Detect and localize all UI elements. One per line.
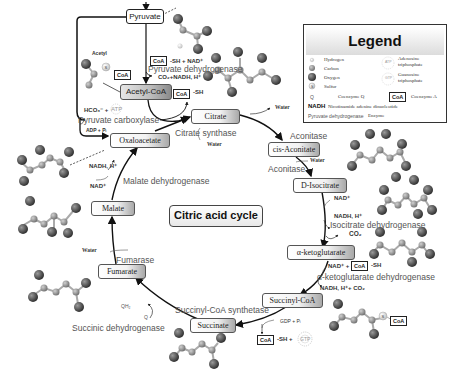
- gtp-label: GTP: [300, 336, 310, 342]
- legend-coa-label: Coenzyme A: [411, 94, 437, 99]
- isocitrate-nad: NAD⁺: [334, 194, 350, 201]
- cis-aconitate-box: cis-Aconitate: [268, 142, 320, 157]
- fumarase-water: Water: [82, 247, 97, 253]
- succinyl-coa-molecule: S: [329, 299, 392, 339]
- fumarate-box: Fumarate: [98, 264, 146, 279]
- acetyl-coa-box: Acetyl-CoA: [120, 84, 172, 100]
- enzyme-aconitase-1: Aconitase: [290, 131, 327, 141]
- enzyme-akg-dehydrogenase: α-ketoglutarate dehydrogenase: [317, 272, 435, 282]
- legend-coa-symbol: CoA: [389, 92, 406, 102]
- pyruvate-box: Pyruvate: [126, 9, 164, 24]
- oxaloacetate-box: Oxaloacetate: [110, 133, 170, 148]
- succinyl-coa-box: Succinyl-CoA: [262, 293, 323, 308]
- succinyl-synth-coa-tag: CoA: [257, 335, 274, 345]
- legend-atp-line1: Adenosine: [398, 56, 419, 61]
- alpha-ketoglutarate-molecule: [369, 227, 435, 267]
- pyruvate-molecule: [173, 14, 212, 54]
- q-label: Q: [144, 314, 148, 320]
- svg-text:S: S: [382, 314, 385, 319]
- legend-nadh-symbol: NADH: [308, 103, 325, 109]
- pdh-co2-nadh: CO₂+NADH, H⁺: [158, 73, 201, 80]
- enzyme-citrate-synthase: Citrate synthase: [175, 128, 236, 138]
- citrate-water: Water: [275, 104, 290, 110]
- legend-atp-symbol: ATP: [385, 60, 392, 64]
- legend-enzyme-label: Enzyme: [368, 113, 384, 118]
- alpha-ketoglutarate-box: α-ketoglutarate: [287, 245, 355, 260]
- legend-hydrogen-label: Hydrogen: [324, 57, 344, 62]
- legend-nadh-label: Nicotinamide adenine dinucleotide: [328, 104, 398, 109]
- enzyme-succinic-dehydrogenase: Succinic dehydrogenase: [72, 323, 165, 333]
- legend-panel: Legend S Hydrogen Carbon Oxygen Sulfur Q…: [303, 24, 447, 123]
- akg-sh: -SH: [371, 262, 381, 268]
- pdh-sh-nad: -SH + NAD⁺: [170, 57, 203, 64]
- released-sh: -SH: [193, 89, 203, 95]
- legend-gtp-line1: Guanosine: [398, 72, 419, 77]
- acetyl-coa-tag: CoA: [114, 70, 131, 80]
- legend-carbon-label: Carbon: [324, 66, 339, 71]
- enzyme-malate-dehydrogenase: Malate dehydrogenase: [123, 176, 209, 186]
- aconitase-water: Water: [310, 157, 325, 163]
- legend-coq-label: Coenzyme Q: [338, 94, 364, 99]
- adp-pi-label: ADP + Pᵢ: [86, 127, 106, 133]
- isocitrate-molecule: [377, 172, 437, 219]
- malate-molecule: [18, 196, 81, 238]
- akg-coa-tag: CoA: [351, 261, 368, 271]
- citrate-box: Citrate: [191, 109, 240, 124]
- atp-label: ATP: [111, 106, 122, 112]
- acetyl-label: Acetyl: [92, 50, 107, 56]
- isocitrate-co2: CO₂: [349, 230, 362, 237]
- malate-box: Malate: [91, 201, 135, 216]
- enzyme-succinyl-coa-synthetase: Succinyl-CoA synthetase: [175, 305, 269, 315]
- enzyme-pyruvate-carboxylase: Pyruvate carboxylase: [78, 115, 159, 125]
- legend-oxygen-label: Oxygen: [324, 75, 340, 80]
- cis-aconitate-molecule: [347, 129, 411, 171]
- succinyl-coa-tag: CoA: [390, 316, 407, 326]
- legend-enzyme-example: Pyruvate dehydrogenase: [308, 113, 364, 119]
- oxaloacetate-molecule: [17, 145, 74, 186]
- legend-q-symbol: Q: [310, 94, 314, 100]
- svg-text:S: S: [105, 65, 108, 70]
- legend-heading: Legend: [306, 27, 444, 55]
- hco3-label: HCO₃⁻ +: [84, 106, 108, 113]
- legend-atp-line2: triphosphate: [398, 62, 423, 67]
- cycle-title: Citric acid cycle: [169, 205, 263, 227]
- released-coa-tag: CoA: [173, 89, 190, 99]
- succinyl-synth-sh: -SH +: [277, 336, 293, 342]
- succinate-box: Succinate: [190, 318, 236, 333]
- qh2-label: QH₂: [121, 303, 130, 309]
- malate-nad: NAD⁺: [90, 182, 106, 189]
- isocitrate-nadh: NADH, H⁺: [334, 212, 362, 219]
- malate-nadh: NADH, H⁺: [89, 162, 117, 169]
- akg-nadh-co2: NADH, H⁺+ CO₂: [320, 284, 365, 291]
- enzyme-fumarase: Fumarase: [116, 255, 154, 265]
- legend-sulfur-label: Sulfur: [324, 84, 337, 89]
- succinate-molecule: [169, 328, 226, 369]
- akg-nad-plus: NAD⁺ +: [328, 262, 349, 269]
- gdp-pi-label: GDP + Pᵢ: [280, 318, 301, 324]
- citrate-synthase-water: Water: [207, 141, 222, 147]
- legend-gtp-line2: triphosphate: [398, 78, 423, 83]
- fumarate-molecule: [28, 270, 91, 312]
- d-isocitrate-box: D-Isocitrate: [293, 178, 347, 193]
- legend-gtp-symbol: GTP: [385, 76, 392, 80]
- enzyme-isocitrate-dehydrogenase: Isocitrate dehydrogenase: [330, 220, 425, 230]
- pdh-coa-tag: CoA: [150, 56, 167, 66]
- enzyme-aconitase-2: Aconitase: [268, 164, 305, 174]
- citric-acid-cycle-diagram: S: [0, 0, 462, 379]
